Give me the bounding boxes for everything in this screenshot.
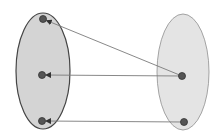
left-set-ellipse bbox=[16, 13, 70, 129]
point-b2 bbox=[181, 119, 188, 126]
arrow-b2-to-a3 bbox=[46, 121, 184, 122]
set-mapping-diagram bbox=[0, 0, 224, 139]
point-a3 bbox=[39, 118, 46, 125]
sets-layer bbox=[16, 13, 209, 130]
point-a1 bbox=[40, 16, 47, 23]
point-b1 bbox=[179, 73, 186, 80]
point-a2 bbox=[39, 72, 46, 79]
right-set-ellipse bbox=[157, 14, 209, 130]
